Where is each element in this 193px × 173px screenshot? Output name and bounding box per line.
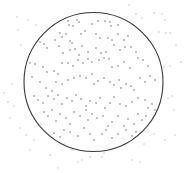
inside-point	[55, 120, 56, 121]
inside-point	[67, 62, 68, 63]
inside-point	[102, 115, 103, 116]
inside-point	[109, 81, 110, 82]
inside-point	[144, 81, 145, 82]
inside-point	[101, 133, 102, 134]
inside-point	[39, 81, 40, 82]
inside-point	[117, 65, 118, 66]
inside-point	[118, 79, 119, 80]
inside-point	[58, 45, 59, 46]
inside-point	[78, 54, 79, 55]
inside-point	[43, 111, 44, 112]
outside-point	[49, 154, 50, 155]
inside-point	[133, 123, 134, 124]
outside-point	[29, 149, 30, 150]
inside-point	[91, 113, 92, 114]
inside-point	[135, 131, 136, 132]
inside-point	[61, 103, 62, 104]
outside-point	[169, 32, 170, 33]
inside-point	[69, 123, 70, 124]
inside-point	[91, 23, 92, 24]
inside-point	[34, 63, 35, 64]
inside-point	[53, 98, 54, 99]
inside-point	[59, 32, 60, 33]
outside-point	[3, 92, 4, 93]
inside-point	[51, 90, 52, 91]
outside-point	[101, 156, 102, 157]
inside-point	[55, 81, 56, 82]
inside-point	[61, 36, 62, 37]
inside-point	[42, 66, 43, 67]
inside-point	[137, 57, 138, 58]
inside-point	[98, 59, 99, 60]
inside-point	[127, 35, 128, 36]
inside-point	[51, 109, 52, 110]
inside-point	[147, 65, 148, 66]
inside-point	[71, 42, 72, 43]
inside-point	[84, 30, 85, 31]
outside-point	[161, 13, 162, 14]
inside-point	[79, 75, 80, 76]
inside-point	[97, 80, 98, 81]
outside-point	[89, 156, 90, 157]
outside-point	[33, 139, 34, 140]
inside-point	[151, 103, 152, 104]
inside-point	[133, 89, 134, 90]
inside-point	[62, 52, 63, 53]
outside-point	[57, 167, 58, 168]
inside-point	[59, 136, 60, 137]
inside-point	[139, 77, 140, 78]
inside-point	[74, 48, 75, 49]
inside-point	[89, 100, 90, 101]
inside-point	[57, 73, 58, 74]
outside-point	[7, 101, 8, 102]
inside-point	[53, 132, 54, 133]
inside-point	[111, 66, 112, 67]
inside-point	[125, 129, 126, 130]
inside-point	[85, 77, 86, 78]
inside-point	[111, 121, 112, 122]
inside-point	[117, 133, 118, 134]
outside-point	[135, 13, 136, 14]
inside-point	[142, 59, 143, 60]
inside-point	[145, 115, 146, 116]
outside-point	[11, 83, 12, 84]
inside-point	[37, 99, 38, 100]
inside-point	[123, 125, 124, 126]
inside-point	[85, 109, 86, 110]
inside-point	[120, 87, 121, 88]
inside-point	[105, 51, 106, 52]
inside-point	[123, 39, 124, 40]
inside-point	[82, 62, 83, 63]
inside-point	[119, 49, 120, 50]
outside-point	[103, 152, 104, 153]
inside-point	[131, 101, 132, 102]
inside-point	[46, 71, 47, 72]
inside-point	[111, 39, 112, 40]
inside-point	[95, 102, 96, 103]
outside-point	[20, 44, 21, 45]
inside-point	[100, 52, 101, 53]
inside-point	[130, 46, 131, 47]
inside-point	[117, 33, 118, 34]
outside-point	[27, 19, 28, 20]
inside-point	[96, 117, 97, 118]
inside-point	[65, 33, 66, 34]
inside-point	[105, 129, 106, 130]
outside-point	[17, 29, 18, 30]
inside-point	[99, 37, 100, 38]
inside-point	[93, 83, 94, 84]
inside-point	[65, 117, 66, 118]
inside-point	[97, 20, 98, 21]
inside-point	[110, 25, 111, 26]
outside-point	[171, 95, 172, 96]
inside-point	[123, 61, 124, 62]
inside-point	[125, 83, 126, 84]
inside-point	[111, 137, 112, 138]
inside-point	[113, 44, 114, 45]
outside-point	[153, 12, 154, 13]
inside-point	[131, 135, 132, 136]
inside-point	[141, 119, 142, 120]
inside-point	[144, 99, 145, 100]
inside-point	[54, 39, 55, 40]
outside-point	[141, 17, 142, 18]
